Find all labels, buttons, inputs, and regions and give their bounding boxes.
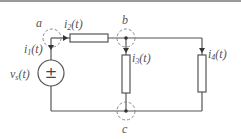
- current-i4-label: i4(t): [208, 47, 227, 62]
- resistor-r1: [70, 34, 108, 42]
- source-label: vs(t): [10, 67, 30, 82]
- source-symbol: ±: [45, 64, 58, 82]
- current-i2-label: i2(t): [64, 17, 83, 32]
- current-i3-label: i3(t): [132, 51, 151, 66]
- arrow-i2-icon: [63, 35, 68, 41]
- arrow-i4-icon: [199, 48, 205, 53]
- node-b-label: b: [122, 13, 128, 27]
- node-b-dot: [124, 36, 128, 40]
- resistor-r4: [198, 55, 206, 92]
- current-i1-label: i1(t): [24, 42, 43, 57]
- circuit-diagram: ± a b c i2(t) i1(t) i3(t) i4(t) vs(t): [0, 0, 241, 139]
- arrow-i3-icon: [123, 48, 129, 53]
- resistor-r3: [122, 55, 130, 93]
- node-c-dot: [124, 109, 128, 113]
- node-c-label: c: [122, 122, 128, 136]
- node-a-label: a: [36, 16, 42, 30]
- arrow-i1-icon: [48, 45, 54, 50]
